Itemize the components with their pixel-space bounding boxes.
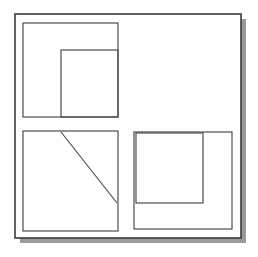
top-left-outer-rect (23, 23, 118, 117)
figure-canvas (0, 0, 258, 257)
line-drawing-svg (0, 0, 258, 257)
bottom-left-outer-rect (23, 131, 118, 231)
bottom-right-outer-rect (134, 132, 232, 229)
